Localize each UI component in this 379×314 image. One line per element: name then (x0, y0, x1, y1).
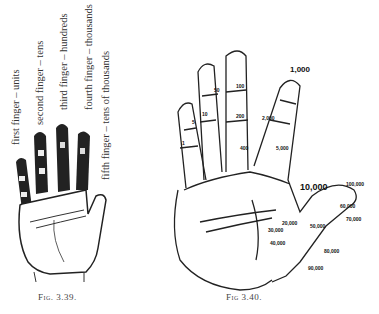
mark-fourth-1000: 1,000 (290, 65, 311, 74)
mark-30000: 30,000 (268, 227, 284, 233)
mark-second-50: 50 (214, 87, 220, 93)
mark-first-5: 5 (192, 119, 195, 125)
figure-3-40: 1 5 10 50 100 200 400 2,000 5,000 1,000 … (140, 0, 379, 314)
mark-fourth-5000: 5,000 (276, 145, 289, 151)
mark-80000: 80,000 (324, 248, 340, 254)
mark-90000: 90,000 (308, 265, 324, 271)
mark-40000: 40,000 (270, 240, 286, 246)
mark-fourth-2000: 2,000 (262, 115, 275, 121)
mark-third-100: 100 (236, 83, 245, 89)
caption-fig-3-39: Fig. 3.39. (38, 292, 77, 302)
hand-drawing-right: 1 5 10 50 100 200 400 2,000 5,000 1,000 … (140, 0, 379, 314)
caption-fig-3-40: Fig 3.40. (226, 292, 262, 302)
mark-100000: 100,000 (346, 181, 364, 187)
mark-70000: 70,000 (346, 216, 362, 222)
mark-third-400: 400 (240, 145, 249, 151)
mark-60000: 60,000 (340, 203, 356, 209)
hand-drawing-left (0, 0, 140, 314)
mark-second-10: 10 (202, 111, 208, 117)
mark-20000: 20,000 (282, 220, 298, 226)
mark-10000: 10,000 (300, 182, 328, 192)
mark-50000: 50,000 (310, 223, 326, 229)
mark-third-200: 200 (236, 113, 245, 119)
mark-first-1: 1 (182, 140, 185, 146)
figure-3-39: first finger – units second finger – ten… (0, 0, 140, 314)
